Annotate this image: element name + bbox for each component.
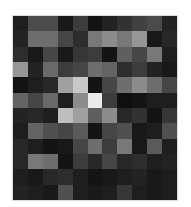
pixel-cell bbox=[88, 93, 103, 108]
pixel-cell bbox=[43, 93, 58, 108]
pixel-cell bbox=[58, 47, 73, 62]
pixel-cell bbox=[102, 169, 117, 184]
pixel-cell bbox=[102, 108, 117, 123]
pixel-cell bbox=[147, 108, 162, 123]
pixel-cell bbox=[117, 108, 132, 123]
pixel-cell bbox=[43, 123, 58, 138]
pixel-cell bbox=[132, 47, 147, 62]
pixel-cell bbox=[28, 31, 43, 46]
pixel-cell bbox=[88, 123, 103, 138]
pixel-cell bbox=[132, 31, 147, 46]
pixel-cell bbox=[43, 16, 58, 31]
pixel-cell bbox=[13, 62, 28, 77]
pixel-cell bbox=[88, 154, 103, 169]
pixel-cell bbox=[147, 123, 162, 138]
pixel-cell bbox=[13, 108, 28, 123]
pixel-cell bbox=[73, 77, 88, 92]
pixel-cell bbox=[13, 16, 28, 31]
pixel-cell bbox=[102, 123, 117, 138]
pixel-cell bbox=[58, 123, 73, 138]
pixel-cell bbox=[162, 123, 177, 138]
pixel-cell bbox=[102, 185, 117, 200]
pixel-cell bbox=[73, 47, 88, 62]
pixel-cell bbox=[147, 93, 162, 108]
pixel-cell bbox=[73, 93, 88, 108]
pixel-cell bbox=[117, 185, 132, 200]
pixel-cell bbox=[132, 185, 147, 200]
pixel-cell bbox=[28, 62, 43, 77]
pixel-cell bbox=[117, 47, 132, 62]
pixel-cell bbox=[162, 169, 177, 184]
pixel-cell bbox=[58, 169, 73, 184]
pixel-cell bbox=[117, 77, 132, 92]
pixel-cell bbox=[147, 31, 162, 46]
pixel-cell bbox=[132, 139, 147, 154]
pixel-cell bbox=[28, 169, 43, 184]
pixel-cell bbox=[147, 169, 162, 184]
pixel-cell bbox=[162, 31, 177, 46]
pixel-cell bbox=[162, 154, 177, 169]
pixel-cell bbox=[73, 31, 88, 46]
pixel-cell bbox=[162, 139, 177, 154]
pixel-cell bbox=[43, 139, 58, 154]
pixel-cell bbox=[28, 93, 43, 108]
pixel-cell bbox=[58, 77, 73, 92]
pixel-cell bbox=[28, 154, 43, 169]
pixel-cell bbox=[88, 185, 103, 200]
pixel-cell bbox=[88, 77, 103, 92]
pixel-cell bbox=[88, 62, 103, 77]
pixel-cell bbox=[162, 77, 177, 92]
pixel-cell bbox=[73, 169, 88, 184]
pixel-cell bbox=[88, 47, 103, 62]
pixel-cell bbox=[43, 169, 58, 184]
pixel-cell bbox=[28, 77, 43, 92]
pixel-cell bbox=[117, 123, 132, 138]
pixel-cell bbox=[58, 154, 73, 169]
pixel-cell bbox=[58, 185, 73, 200]
pixel-cell bbox=[162, 93, 177, 108]
pixel-cell bbox=[73, 123, 88, 138]
pixel-cell bbox=[13, 169, 28, 184]
pixel-cell bbox=[43, 108, 58, 123]
pixel-cell bbox=[132, 154, 147, 169]
pixel-cell bbox=[117, 16, 132, 31]
pixel-cell bbox=[117, 93, 132, 108]
pixel-cell bbox=[147, 16, 162, 31]
pixel-cell bbox=[43, 62, 58, 77]
pixel-cell bbox=[13, 123, 28, 138]
pixel-cell bbox=[73, 108, 88, 123]
pixel-cell bbox=[132, 169, 147, 184]
pixel-cell bbox=[73, 16, 88, 31]
pixel-cell bbox=[73, 62, 88, 77]
pixel-cell bbox=[88, 169, 103, 184]
pixel-cell bbox=[13, 47, 28, 62]
pixel-cell bbox=[28, 16, 43, 31]
pixel-cell bbox=[117, 62, 132, 77]
pixel-cell bbox=[73, 139, 88, 154]
pixel-cell bbox=[58, 62, 73, 77]
pixel-cell bbox=[117, 169, 132, 184]
pixel-cell bbox=[132, 93, 147, 108]
pixel-cell bbox=[58, 31, 73, 46]
pixel-cell bbox=[28, 185, 43, 200]
pixel-cell bbox=[88, 31, 103, 46]
pixel-cell bbox=[162, 185, 177, 200]
pixel-cell bbox=[102, 62, 117, 77]
pixel-cell bbox=[147, 154, 162, 169]
pixel-cell bbox=[43, 77, 58, 92]
pixel-cell bbox=[162, 47, 177, 62]
pixel-cell bbox=[13, 93, 28, 108]
pixel-cell bbox=[13, 154, 28, 169]
pixel-cell bbox=[13, 31, 28, 46]
pixel-cell bbox=[102, 139, 117, 154]
pixel-cell bbox=[147, 62, 162, 77]
pixel-grid-image bbox=[13, 16, 177, 200]
pixel-cell bbox=[102, 47, 117, 62]
pixel-cell bbox=[162, 16, 177, 31]
pixel-cell bbox=[28, 123, 43, 138]
pixel-cell bbox=[162, 108, 177, 123]
pixel-cell bbox=[43, 154, 58, 169]
pixel-cell bbox=[102, 77, 117, 92]
pixel-cell bbox=[117, 139, 132, 154]
pixel-cell bbox=[28, 139, 43, 154]
